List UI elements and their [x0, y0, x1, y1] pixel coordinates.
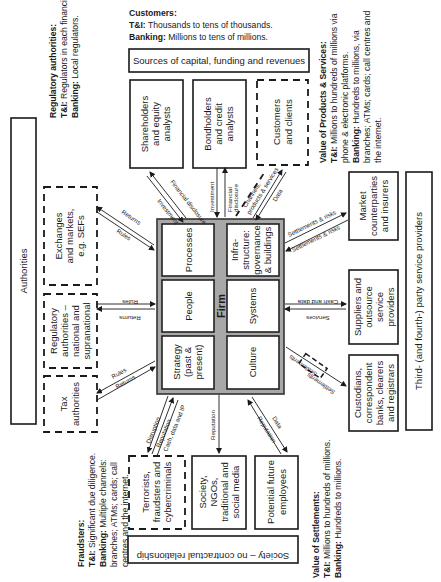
flow-employees: Data Reputation — [248, 397, 287, 454]
svg-text:Services: Services — [306, 315, 330, 322]
flow-society-media: Reputation — [209, 395, 219, 453]
customers-box: Customers and clients — [257, 80, 308, 165]
svg-text:providers: providers — [385, 287, 396, 326]
firm-box: Firm Processes People Strategy (past & p… — [157, 219, 284, 394]
svg-text:e.g. SEFs: e.g. SEFs — [75, 215, 86, 257]
flow-custodians: Settlements Settlements — [286, 347, 346, 396]
svg-text:and insurers: and insurers — [379, 180, 390, 233]
svg-text:service: service — [374, 292, 385, 322]
society-media-box: Society, NGOs, traditional and social me… — [192, 456, 246, 529]
svg-text:and clients: and clients — [283, 99, 294, 145]
svg-text:Tax: Tax — [58, 396, 69, 411]
svg-text:analysts: analysts — [161, 106, 172, 141]
svg-text:branches; ATMs; cards; call ce: branches; ATMs; cards; call centres and — [362, 11, 372, 163]
flow-exchanges: Returns Rules — [97, 207, 154, 250]
shareholders-box: Shareholders and equity analysts — [130, 80, 183, 168]
svg-text:T&I: Millions to hundreds of m: T&I: Millions to hundreds of millions vi… — [329, 13, 339, 163]
svg-text:analysts: analysts — [224, 106, 235, 141]
svg-text:Strategy: Strategy — [171, 344, 182, 380]
customers-note: Customers: T&I: Thousands to tens of tho… — [129, 8, 273, 42]
svg-text:Regulatory authorities:: Regulatory authorities: — [48, 24, 58, 118]
svg-text:national and: national and — [70, 305, 81, 357]
flow-tax: Rules Returns — [97, 361, 155, 400]
svg-text:banks, clearers: banks, clearers — [374, 361, 385, 426]
svg-text:Infra-: Infra- — [229, 239, 240, 261]
svg-text:Exchanges: Exchanges — [53, 212, 64, 259]
svg-text:counterparties: counterparties — [368, 176, 379, 236]
svg-text:structure:: structure: — [240, 230, 251, 270]
svg-text:and markets,: and markets, — [64, 209, 75, 264]
svg-text:Cash and data: Cash and data — [297, 299, 338, 306]
svg-text:governance: governance — [251, 225, 262, 275]
flow-shareholders: Investment Financial disclosure — [147, 172, 209, 226]
flow-bondholders: Investment Financial disclosure — [208, 168, 239, 217]
flow-terrorists: Disruption Reputation Cash, data and IP — [144, 396, 186, 456]
potential-employees-box: Potential future employees — [255, 456, 298, 529]
svg-text:employees: employees — [277, 469, 288, 515]
authorities-group-box: Authorities — [11, 118, 36, 424]
svg-text:disclosure: disclosure — [232, 184, 239, 212]
sources-group-box: Sources of capital, funding and revenues — [129, 49, 309, 72]
regulatory-authorities-note: Regulatory authorities: T&I: Regulators … — [48, 0, 80, 118]
svg-text:and equity: and equity — [150, 102, 161, 146]
flow-regulators: Rules Returns — [97, 299, 155, 322]
svg-text:Banking: Hundreds to millions,: Banking: Hundreds to millions, via — [351, 30, 361, 163]
firm-cell-systems: Systems — [227, 280, 279, 332]
svg-text:phone & electronic platforms.: phone & electronic platforms. — [340, 52, 350, 163]
svg-text:Authorities: Authorities — [18, 248, 29, 293]
svg-text:NGOs,: NGOs, — [208, 477, 219, 506]
svg-text:Shareholders: Shareholders — [139, 95, 150, 152]
value-of-products-note: Value of Products & Services: T&I: Milli… — [318, 11, 383, 163]
tax-authorities-box: Tax authorities — [44, 376, 97, 432]
svg-text:Society,: Society, — [197, 475, 208, 508]
firm-cell-infrastructure: Infra- structure: governance & buildings — [227, 224, 279, 276]
svg-text:Returns: Returns — [119, 315, 141, 322]
firm-cell-people: People — [162, 280, 214, 332]
svg-text:T&I: Significant due diligence: T&I: Significant due diligence. — [87, 453, 97, 567]
value-of-settlements-note: Value of Settlements: T&I: Millions to h… — [311, 439, 343, 578]
svg-text:Banking: Multiple channels:: Banking: Multiple channels: — [98, 459, 108, 567]
svg-text:authorities –: authorities – — [59, 304, 70, 356]
society-group-box: Society – no contractual relationship — [128, 536, 298, 563]
svg-text:T&I: Thousands to tens of thou: T&I: Thousands to tens of thousands. — [129, 20, 273, 30]
svg-text:outsource: outsource — [363, 286, 374, 328]
suppliers-box: Suppliers and outsource service provider… — [349, 270, 398, 344]
svg-text:Customers:: Customers: — [129, 8, 177, 18]
svg-text:social media: social media — [230, 465, 241, 519]
flow-market: Settlements & risks Settlements & risks — [285, 208, 348, 253]
svg-text:Bondholders: Bondholders — [202, 97, 213, 151]
svg-text:Banking: Millions to tens of m: Banking: Millions to tens of millions. — [129, 32, 268, 42]
svg-text:Processes: Processes — [183, 228, 194, 273]
svg-text:Terrorists,: Terrorists, — [140, 471, 151, 513]
exchanges-box: Exchanges and markets, e.g. SEFs — [44, 187, 97, 285]
svg-text:Fraudsters:: Fraudsters: — [76, 520, 86, 567]
svg-text:T&I: Regulators in each financ: T&I: Regulators in each financial centre… — [59, 0, 69, 118]
svg-text:traditional and: traditional and — [219, 462, 230, 522]
svg-text:Firm: Firm — [215, 294, 227, 318]
fraudsters-note: Fraudsters: T&I: Significant due diligen… — [76, 453, 130, 567]
svg-text:Investment: Investment — [208, 181, 215, 212]
market-counterparties-box: Market counterparties and insurers — [349, 172, 398, 240]
svg-text:Sources of capital, funding an: Sources of capital, funding and revenues — [133, 55, 305, 66]
svg-text:Value of Products & Services:: Value of Products & Services: — [318, 41, 328, 163]
svg-text:Returns: Returns — [120, 208, 142, 226]
svg-text:branches; ATMs; cards; call: branches; ATMs; cards; call — [109, 462, 119, 567]
custodians-box: Custodians, correspondent banks, clearer… — [349, 355, 398, 431]
svg-text:and credit: and credit — [213, 103, 224, 145]
svg-text:Systems: Systems — [247, 288, 258, 325]
svg-text:the internet.: the internet. — [373, 118, 383, 163]
svg-text:supranational: supranational — [81, 302, 92, 359]
svg-text:Culture: Culture — [247, 347, 258, 378]
svg-text:Market: Market — [357, 191, 368, 220]
svg-text:Banking: Local regulators.: Banking: Local regulators. — [70, 15, 80, 118]
svg-text:cybercriminals: cybercriminals — [162, 461, 173, 522]
firm-cell-culture: Culture — [227, 336, 279, 389]
svg-text:present): present) — [193, 345, 204, 380]
svg-text:Potential future: Potential future — [265, 460, 276, 524]
bondholders-box: Bondholders and credit analysts — [193, 80, 246, 168]
svg-text:People: People — [183, 291, 194, 321]
flow-customers: Channels, products & services Data — [236, 166, 286, 220]
svg-text:Suppliers and: Suppliers and — [352, 278, 363, 336]
regulatory-authorities-box: Regulatory authorities – national and su… — [44, 294, 97, 368]
svg-text:Customers: Customers — [271, 99, 282, 145]
